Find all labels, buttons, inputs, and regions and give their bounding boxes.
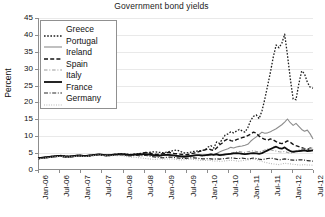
legend-item-ireland[interactable]: Ireland — [44, 47, 112, 59]
x-tick-label: Jul-12 — [317, 175, 325, 197]
x-tick-label: Jan-09 — [168, 175, 176, 199]
legend-item-france[interactable]: France — [44, 82, 112, 94]
x-tick-label: Jul-06 — [63, 175, 71, 197]
x-tick-mark — [271, 170, 272, 173]
x-tick-label: Jan-12 — [295, 175, 303, 199]
x-tick-mark — [80, 170, 81, 173]
y-tick-label: 30 — [24, 65, 33, 73]
legend-label: Italy — [66, 71, 82, 80]
y-axis-title: Percent — [3, 53, 13, 113]
series-line-ireland — [38, 132, 313, 158]
x-tick-label: Jul-10 — [232, 175, 240, 197]
x-tick-label: Jan-08 — [126, 175, 134, 199]
legend-swatch-italy-icon — [44, 72, 62, 80]
legend-item-germany[interactable]: Germany — [44, 93, 112, 105]
x-tick-mark — [123, 170, 124, 173]
x-tick-mark — [101, 170, 102, 173]
chart-title: Government bond yields — [0, 1, 323, 11]
legend-swatch-ireland-icon — [44, 49, 62, 57]
legend-label: Ireland — [66, 48, 92, 57]
x-tick-label: Jul-11 — [274, 175, 282, 196]
x-tick-label: Jul-07 — [105, 175, 113, 197]
legend-item-spain[interactable]: Spain — [44, 59, 112, 71]
legend-swatch-spain-icon — [44, 60, 62, 68]
x-tick-mark — [59, 170, 60, 173]
x-tick-mark — [38, 170, 39, 173]
x-tick-mark — [186, 170, 187, 173]
legend-swatch-germany-icon — [44, 95, 62, 103]
legend-label: Spain — [66, 60, 88, 69]
y-tick-label: 35 — [24, 48, 33, 56]
y-tick-label: 25 — [24, 82, 33, 90]
legend-item-portugal[interactable]: Portugal — [44, 36, 112, 48]
x-tick-label: Jul-09 — [190, 175, 198, 197]
x-tick-label: Jan-06 — [42, 175, 50, 199]
x-tick-mark — [250, 170, 251, 173]
x-tick-label: Jan-10 — [211, 175, 219, 199]
legend: GreecePortugalIrelandSpainItalyFranceGer… — [40, 20, 117, 109]
legend-swatch-france-icon — [44, 83, 62, 91]
legend-label: Portugal — [66, 37, 98, 46]
x-tick-mark — [292, 170, 293, 173]
x-tick-label: Jul-08 — [147, 175, 155, 197]
y-tick-label: 40 — [24, 31, 33, 39]
y-tick-label: 0 — [29, 166, 33, 174]
x-tick-label: Jan-07 — [84, 175, 92, 199]
x-tick-mark — [165, 170, 166, 173]
legend-item-greece[interactable]: Greece — [44, 24, 112, 36]
x-tick-mark — [228, 170, 229, 173]
legend-item-italy[interactable]: Italy — [44, 70, 112, 82]
y-tick-label: 45 — [24, 14, 33, 22]
x-tick-label: Jan-11 — [253, 175, 261, 199]
y-tick-label: 20 — [24, 98, 33, 106]
legend-label: France — [66, 83, 92, 92]
x-tick-mark — [313, 170, 314, 173]
y-tick-label: 10 — [24, 132, 33, 140]
legend-swatch-greece-icon — [44, 26, 62, 34]
legend-swatch-portugal-icon — [44, 37, 62, 45]
x-tick-mark — [144, 170, 145, 173]
legend-label: Germany — [66, 94, 101, 103]
y-tick-label: 15 — [24, 115, 33, 123]
legend-label: Greece — [66, 25, 94, 34]
y-tick-label: 5 — [29, 149, 33, 157]
x-tick-mark — [207, 170, 208, 173]
